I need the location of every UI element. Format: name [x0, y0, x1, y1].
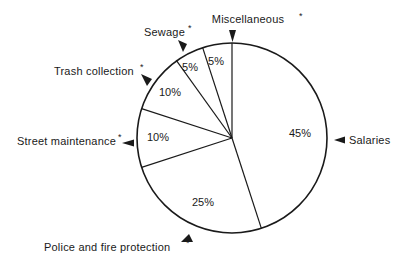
callout-arrow-trash-collection-icon	[141, 74, 152, 86]
callout-arrow-police-and-fire-protection-icon	[181, 234, 193, 242]
callout-asterisk-miscellaneous: *	[299, 11, 303, 21]
callout-asterisk-trash-collection: *	[140, 62, 144, 72]
callout-asterisk-street-maintenance: *	[118, 132, 122, 142]
callout-arrow-street-maintenance-icon	[122, 140, 134, 147]
callout-label-miscellaneous: Miscellaneous	[212, 13, 285, 25]
callout-label-sewage: Sewage	[144, 26, 185, 38]
slice-value-salaries: 45%	[289, 127, 311, 139]
callout-label-salaries: Salaries	[349, 134, 391, 146]
pie-chart-figure: 45% 25% 10% 10% 5% 5% Salaries Miscellan…	[0, 0, 399, 260]
callout-asterisk-sewage: *	[188, 23, 192, 33]
callout-label-street-maintenance: Street maintenance	[17, 135, 116, 147]
callout-arrow-miscellaneous-icon	[229, 30, 236, 42]
slice-value-street-maintenance: 10%	[147, 131, 169, 143]
slice-value-police-and-fire-protection: 25%	[192, 196, 214, 208]
callout-arrow-salaries-icon	[334, 137, 345, 144]
callout-label-police-and-fire-protection: Police and fire protection	[44, 241, 170, 253]
slice-value-miscellaneous: 5%	[208, 55, 224, 67]
slice-value-sewage: 5%	[182, 61, 198, 73]
callout-arrow-sewage-icon	[178, 40, 187, 52]
slice-value-trash-collection: 10%	[159, 86, 181, 98]
callout-label-trash-collection: Trash collection	[54, 65, 134, 77]
